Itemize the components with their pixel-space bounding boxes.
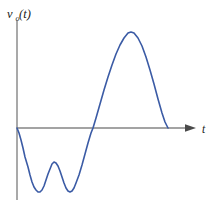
waveform-figure: v o (t) t <box>0 0 216 206</box>
y-axis-label-variable: v <box>7 7 13 21</box>
y-axis-label: v o (t) <box>7 7 31 23</box>
plot-canvas: v o (t) t <box>0 0 216 206</box>
waveform-curve <box>17 32 168 192</box>
y-axis-label-argument: (t) <box>19 7 31 21</box>
x-axis-arrowhead-icon <box>185 124 196 132</box>
x-axis-label: t <box>202 123 206 135</box>
